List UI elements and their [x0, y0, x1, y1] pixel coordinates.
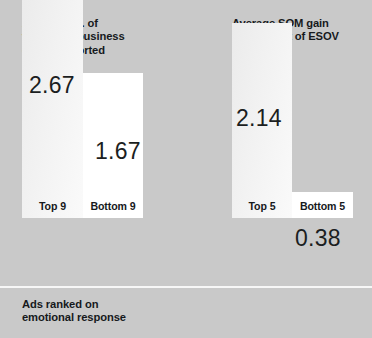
bar-top-5-value-label: 2.14: [236, 107, 282, 130]
bar-bottom-5: Bottom 5: [292, 192, 353, 218]
bar-top-9-category-label: Top 9: [22, 200, 83, 212]
footer-divider: [0, 286, 372, 288]
panel-right-plot-area: Top 5 Bottom 5: [186, 0, 372, 278]
panel-left-plot-area: Top 9 Bottom 9: [0, 0, 186, 278]
bar-top-9-value-label: 2.67: [29, 74, 75, 97]
bar-chart-figure: Average no. of very large business effec…: [0, 0, 372, 338]
bar-bottom-9-category-label: Bottom 9: [83, 200, 143, 212]
bar-top-5-category-label: Top 5: [232, 200, 292, 212]
bar-top-9: Top 9: [22, 0, 83, 218]
bar-bottom-9-value-label: 1.67: [95, 140, 141, 163]
panel-left-footnote: Ads ranked on emotional response: [22, 298, 182, 325]
bar-bottom-5-value-label: 0.38: [295, 227, 341, 250]
bar-top-9-fill: [22, 0, 83, 218]
bar-bottom-5-category-label: Bottom 5: [292, 200, 353, 212]
